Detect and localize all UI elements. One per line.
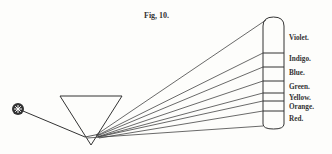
label-indigo: Indigo. [289,55,311,63]
dispersed-rays [87,20,266,138]
label-yellow: Yellow. [289,94,311,102]
spectrum-screen [263,17,284,129]
label-blue: Blue. [289,69,305,77]
incident-ray [23,111,85,137]
label-green: Green. [289,83,310,91]
label-red: Red. [289,115,303,123]
prism-diagram [0,0,332,154]
label-violet: Violet. [289,34,309,42]
label-orange: Orange. [289,103,314,111]
star-sun-icon [12,103,24,115]
